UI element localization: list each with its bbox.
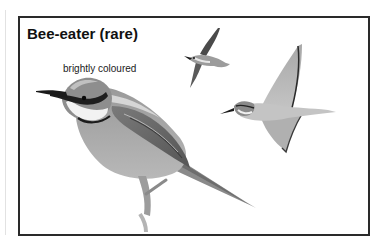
bird-illustrations (20, 18, 368, 234)
perched-bird-icon (36, 78, 256, 232)
species-card: Bee-eater (rare) brightly coloured (18, 16, 370, 236)
flying-bird-large-icon (220, 44, 336, 152)
flying-bird-small-icon (184, 28, 230, 88)
page-margin-line (5, 10, 6, 235)
